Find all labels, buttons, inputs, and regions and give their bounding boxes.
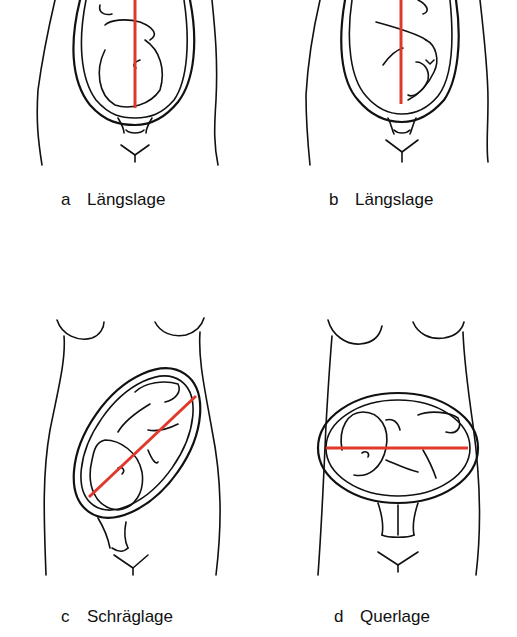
panel-d-transverse-lie: dQuerlage bbox=[258, 300, 517, 637]
panel-letter: c bbox=[61, 607, 87, 627]
panel-a-caption: aLängslage bbox=[61, 190, 165, 210]
panel-letter: d bbox=[334, 607, 360, 627]
panel-a-longitudinal-lie: aLängslage bbox=[0, 0, 258, 230]
panel-b-caption: bLängslage bbox=[329, 190, 433, 210]
panel-label: Längslage bbox=[87, 190, 165, 209]
oblique-lie-illustration bbox=[0, 300, 258, 637]
panel-label: Längslage bbox=[355, 190, 433, 209]
panel-b-longitudinal-lie: bLängslage bbox=[258, 0, 517, 230]
panel-label: Schräglage bbox=[87, 607, 173, 626]
panel-label: Querlage bbox=[360, 607, 430, 626]
panel-c-caption: cSchräglage bbox=[61, 607, 173, 627]
panel-letter: a bbox=[61, 190, 87, 210]
transverse-lie-illustration bbox=[258, 300, 517, 637]
panel-d-caption: dQuerlage bbox=[334, 607, 430, 627]
panel-letter: b bbox=[329, 190, 355, 210]
panel-c-oblique-lie: cSchräglage bbox=[0, 300, 258, 637]
